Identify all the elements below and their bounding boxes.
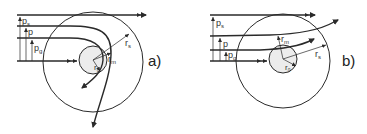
trajectory-p-b: [210, 20, 338, 36]
panel-label-a: a): [148, 52, 161, 69]
scattering-diagram: ps p pg rs rm r0 a) ps p pg rs rm: [0, 0, 367, 134]
panel-a: ps p pg rs rm r0 a): [17, 12, 161, 127]
label-rm-a: rm: [108, 54, 116, 65]
label-rm-b: rm: [281, 34, 289, 45]
label-pg-a: pg: [34, 43, 42, 54]
label-p-b: p: [223, 39, 228, 49]
label-pg-b: pg: [228, 50, 236, 61]
panel-label-b: b): [342, 52, 355, 69]
label-ps-a: ps: [22, 16, 30, 27]
label-ps-b: ps: [216, 18, 224, 29]
panel-b: ps p pg rs rm r0 b): [210, 13, 355, 108]
trajectory-p-a: [17, 26, 111, 127]
label-p-a: p: [28, 27, 33, 37]
label-rs-a: rs: [125, 38, 131, 49]
label-rs-b: rs: [315, 49, 321, 60]
